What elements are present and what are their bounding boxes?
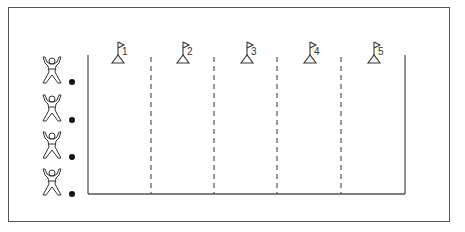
flag-1: 1 (112, 42, 128, 63)
ball-icon (69, 154, 75, 160)
court (88, 55, 405, 194)
relay-diagram: 1 2 3 4 5 (0, 0, 465, 232)
flag-2: 2 (177, 42, 193, 63)
ball-icon (69, 117, 75, 123)
flag-3: 3 (241, 42, 257, 63)
lane-number: 3 (251, 46, 257, 57)
lane-number: 4 (314, 46, 320, 57)
player-2 (43, 95, 75, 123)
lane-number: 2 (187, 46, 193, 57)
flag-5: 5 (368, 42, 384, 63)
lane-number: 1 (122, 46, 128, 57)
ball-icon (69, 191, 75, 197)
player-4 (43, 169, 75, 197)
lane-number: 5 (378, 46, 384, 57)
person-icon (43, 57, 61, 83)
player-1 (43, 57, 75, 85)
ball-icon (69, 79, 75, 85)
person-icon (43, 169, 61, 195)
person-icon (43, 95, 61, 121)
person-icon (43, 132, 61, 158)
player-3 (43, 132, 75, 160)
lane-dividers (151, 57, 341, 194)
flag-4: 4 (304, 42, 320, 63)
